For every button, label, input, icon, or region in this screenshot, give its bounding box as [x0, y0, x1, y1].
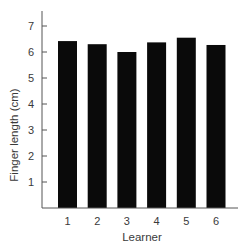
- y-tick-label: 7: [28, 20, 34, 32]
- y-tick-label: 4: [28, 98, 34, 110]
- x-tick-label: 1: [64, 215, 70, 227]
- bar-chart: 1234567 123456 Finger length (cm) Learne…: [0, 0, 247, 246]
- bar-learner-4: [147, 42, 166, 208]
- y-tick-label: 2: [28, 150, 34, 162]
- y-axis-label: Finger length (cm): [8, 88, 20, 181]
- x-tick-label: 4: [154, 215, 160, 227]
- y-tick-label: 3: [28, 124, 34, 136]
- bar-learner-6: [207, 45, 226, 208]
- x-tick-label: 3: [124, 215, 130, 227]
- y-tick-label: 6: [28, 46, 34, 58]
- x-axis-label: Learner: [122, 231, 162, 243]
- x-tick-label: 2: [94, 215, 100, 227]
- bars: [58, 38, 226, 208]
- x-axis: 123456: [42, 208, 238, 227]
- y-tick-label: 5: [28, 72, 34, 84]
- bar-learner-2: [88, 44, 107, 208]
- y-axis: 1234567: [28, 11, 47, 208]
- x-tick-label: 6: [213, 215, 219, 227]
- x-tick-label: 5: [183, 215, 189, 227]
- bar-learner-3: [117, 52, 136, 208]
- bar-learner-1: [58, 41, 77, 208]
- bar-learner-5: [177, 38, 196, 208]
- y-tick-label: 1: [28, 176, 34, 188]
